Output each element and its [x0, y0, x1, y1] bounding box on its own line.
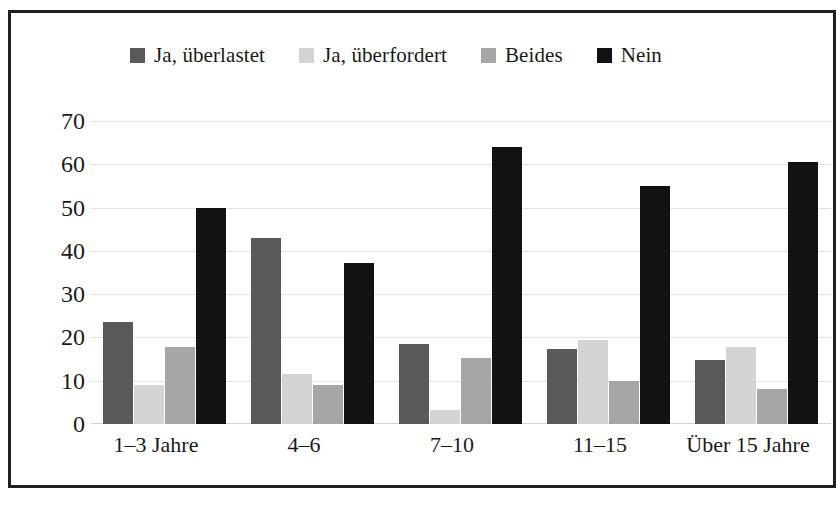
y-axis-tick-label: 0 — [73, 411, 85, 438]
bar[interactable] — [726, 347, 756, 424]
bar[interactable] — [492, 147, 522, 424]
legend-label: Beides — [505, 43, 563, 68]
x-axis-category-label: 1–3 Jahre — [91, 431, 239, 459]
bar[interactable] — [578, 340, 608, 424]
legend-item-1[interactable]: Ja, überfordert — [299, 43, 447, 68]
y-axis-tick-label: 60 — [61, 151, 85, 178]
legend-label: Ja, überlastet — [154, 43, 265, 68]
legend-item-2[interactable]: Beides — [481, 43, 563, 68]
legend-item-0[interactable]: Ja, überlastet — [130, 43, 265, 68]
y-axis: 706050403020100 — [29, 121, 85, 424]
y-axis-tick-label: 70 — [61, 108, 85, 135]
bar[interactable] — [344, 263, 374, 424]
legend-swatch-icon — [299, 48, 314, 63]
y-axis-tick-label: 50 — [61, 194, 85, 221]
legend-label: Nein — [621, 43, 662, 68]
bar[interactable] — [547, 349, 577, 424]
y-axis-tick-label: 10 — [61, 367, 85, 394]
bar[interactable] — [399, 344, 429, 424]
legend-swatch-icon — [481, 48, 496, 63]
bar[interactable] — [640, 186, 670, 424]
legend-item-3[interactable]: Nein — [597, 43, 662, 68]
bar[interactable] — [134, 385, 164, 424]
bar[interactable] — [757, 389, 787, 424]
bar[interactable] — [251, 238, 281, 424]
legend-label: Ja, überfordert — [323, 43, 447, 68]
bar[interactable] — [609, 381, 639, 424]
bar[interactable] — [165, 347, 195, 424]
bar-groups — [91, 121, 831, 424]
bar[interactable] — [461, 358, 491, 424]
bar-group — [91, 121, 239, 424]
x-axis-category-label: 7–10 — [387, 431, 535, 459]
bar[interactable] — [103, 322, 133, 424]
x-axis-category-label: Über 15 Jahre — [683, 431, 831, 459]
chart-frame: Ja, überlastetJa, überfordertBeidesNein … — [8, 10, 836, 488]
bar[interactable] — [430, 410, 460, 424]
x-axis-category-label: 4–6 — [239, 431, 387, 459]
chart-legend: Ja, überlastetJa, überfordertBeidesNein — [11, 43, 781, 68]
bar-group — [683, 121, 831, 424]
bar[interactable] — [196, 208, 226, 424]
legend-swatch-icon — [130, 48, 145, 63]
x-axis-category-label: 11–15 — [535, 431, 683, 459]
y-axis-tick-label: 20 — [61, 324, 85, 351]
y-axis-tick-label: 30 — [61, 281, 85, 308]
bar-group — [387, 121, 535, 424]
legend-swatch-icon — [597, 48, 612, 63]
bar[interactable] — [282, 374, 312, 424]
bar-group — [239, 121, 387, 424]
y-axis-tick-label: 40 — [61, 237, 85, 264]
bar-group — [535, 121, 683, 424]
bar[interactable] — [313, 385, 343, 424]
bar[interactable] — [788, 162, 818, 424]
x-axis: 1–3 Jahre4–67–1011–15Über 15 Jahre — [91, 431, 831, 459]
bar[interactable] — [695, 360, 725, 424]
